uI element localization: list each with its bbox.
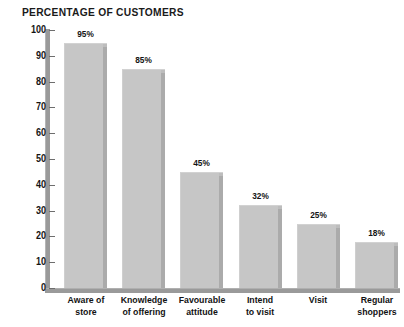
y-axis-tick: [49, 211, 55, 212]
y-axis-label: 10: [15, 257, 46, 267]
y-axis-tick: [49, 82, 55, 83]
bar-edge-highlight: [103, 44, 107, 47]
bar-value-label: 25%: [299, 211, 339, 220]
bar-edge: [394, 243, 398, 288]
y-axis-tick: [49, 262, 55, 263]
category-label: Regular shoppers: [342, 294, 404, 317]
bar-edge: [103, 44, 107, 288]
plot-area: 1009080706050403020100 95%85%45%32%25%18…: [0, 0, 404, 327]
y-axis-label: 50: [15, 154, 46, 164]
y-axis-tick: [49, 185, 55, 186]
bar-value-label: 18%: [357, 229, 397, 238]
bar-edge-highlight: [161, 70, 165, 73]
bar-edge: [336, 225, 340, 289]
y-axis-label: 30: [15, 206, 46, 216]
bar-edge-highlight: [336, 225, 340, 228]
bar-edge-highlight: [278, 206, 282, 209]
y-axis-label: 40: [15, 180, 46, 190]
bar-chart: PERCENTAGE OF CUSTOMERS 1009080706050403…: [0, 0, 404, 327]
y-axis-tick: [49, 56, 55, 57]
y-axis-tick: [49, 30, 55, 31]
y-axis-tick: [49, 107, 55, 108]
bar-value-label: 45%: [182, 159, 222, 168]
y-axis-label: 100: [15, 25, 46, 35]
bar: [64, 43, 107, 288]
y-axis-tick: [49, 133, 55, 134]
bar-edge: [219, 173, 223, 288]
bar: [297, 224, 340, 289]
bar-value-label: 85%: [124, 56, 164, 65]
y-axis-tick: [49, 288, 55, 289]
y-axis-label: 90: [15, 51, 46, 61]
y-axis-tick: [49, 159, 55, 160]
bar: [122, 69, 165, 288]
y-axis-label: 70: [15, 102, 46, 112]
y-axis-tick: [49, 236, 55, 237]
y-axis-label: 0: [15, 283, 46, 293]
x-axis-line: [45, 288, 400, 293]
bar-value-label: 32%: [240, 192, 280, 201]
bar-edge-highlight: [394, 243, 398, 246]
bar-edge: [278, 206, 282, 288]
bar-value-label: 95%: [66, 30, 106, 39]
bar: [180, 172, 223, 288]
y-axis-label: 20: [15, 231, 46, 241]
bar-edge: [161, 70, 165, 288]
y-axis-label: 80: [15, 77, 46, 87]
bar: [239, 205, 282, 288]
y-axis-label: 60: [15, 128, 46, 138]
bar: [355, 242, 398, 288]
bar-edge-highlight: [219, 173, 223, 176]
